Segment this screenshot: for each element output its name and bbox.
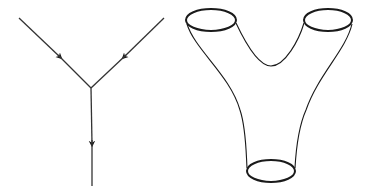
- edge-incoming-right-tail: [91, 55, 126, 88]
- top-left-circle: [186, 9, 236, 31]
- vertex-graph: [19, 18, 164, 186]
- edge-incoming-left: [19, 18, 60, 57]
- edge-incoming-left-tail: [58, 55, 91, 88]
- outer-right-contour: [295, 24, 352, 168]
- inner-crotch-contour: [236, 23, 304, 66]
- diagram-canvas: [0, 0, 370, 191]
- bottom-circle: [247, 160, 295, 182]
- pants-surface: [186, 9, 352, 182]
- top-right-circle: [304, 9, 352, 31]
- edge-outgoing-down: [91, 88, 92, 144]
- outer-left-contour: [187, 24, 247, 168]
- edge-incoming-right: [124, 18, 164, 57]
